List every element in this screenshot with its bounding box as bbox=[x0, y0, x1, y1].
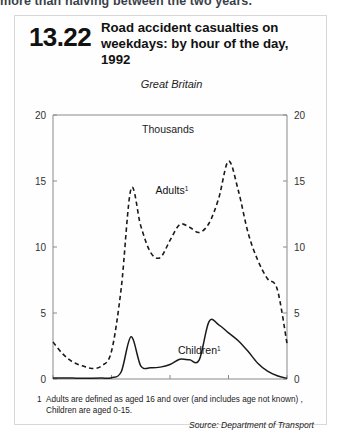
y-tick-label-right: 20 bbox=[294, 110, 306, 121]
series-line-children bbox=[53, 319, 287, 378]
series-label-children: Children1 bbox=[178, 344, 221, 356]
footnote-line-2: Children are aged 0-15. bbox=[46, 405, 132, 416]
figure-title: Road accident casualties on weekdays: by… bbox=[101, 20, 319, 68]
figure-number: 13.22 bbox=[29, 22, 91, 53]
y-tick-label-left: 15 bbox=[35, 176, 47, 187]
y-tick-label-left: 20 bbox=[35, 110, 47, 121]
chart-unit-label: Thousands bbox=[142, 123, 194, 135]
y-tick-label-left: 0 bbox=[40, 374, 46, 384]
y-tick-label-left: 10 bbox=[35, 242, 47, 253]
y-tick-label-right: 5 bbox=[294, 308, 300, 319]
chart-plot-area: 0055101015152020Midnight6amNoon6pmMidnig… bbox=[15, 94, 328, 384]
page-top-partial-text: more than halving between the two years. bbox=[0, 0, 342, 8]
figure-title-line1: Road accident casualties on bbox=[101, 20, 319, 36]
figure-title-line2: weekdays: by hour of the day, 1992 bbox=[101, 36, 319, 68]
footnote-marker: 1 bbox=[37, 394, 42, 405]
y-tick-label-left: 5 bbox=[40, 308, 46, 319]
y-tick-label-right: 0 bbox=[294, 374, 300, 384]
series-label-adults: Adults1 bbox=[156, 184, 189, 196]
series-label-superscript: 1 bbox=[217, 345, 221, 352]
source-note: Source: Department of Transport bbox=[189, 420, 314, 430]
series-label-superscript: 1 bbox=[185, 185, 189, 192]
line-chart: 0055101015152020Midnight6amNoon6pmMidnig… bbox=[15, 94, 328, 384]
figure-panel: 13.22 Road accident casualties on weekda… bbox=[14, 15, 327, 425]
chart-subtitle: Great Britain bbox=[15, 78, 328, 90]
chart-axes: 0055101015152020Midnight6amNoon6pmMidnig… bbox=[34, 110, 306, 384]
y-tick-label-right: 10 bbox=[294, 242, 306, 253]
y-tick-label-right: 15 bbox=[294, 176, 306, 187]
footnote-line-1: Adults are defined as aged 16 and over (… bbox=[46, 394, 303, 405]
